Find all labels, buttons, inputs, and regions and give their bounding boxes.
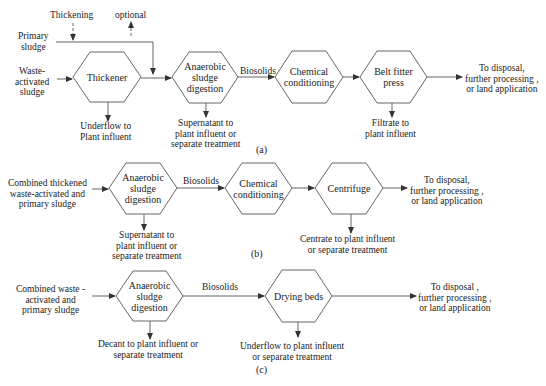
edge-label-biosolids-a: Biosolids	[240, 66, 276, 77]
label-a-filtrate: Filtrate to plant influent	[365, 118, 416, 139]
node-belt-filter-press: Belt fitter press	[360, 51, 427, 103]
node-centrifuge: Centrifuge	[315, 163, 383, 214]
label-b-final-output: To disposal, further processing , or lan…	[410, 175, 484, 207]
label-waste-activated-sludge: Waste- activated sludge	[15, 66, 49, 98]
node-b-chemical: Chemical conditioning	[225, 163, 292, 214]
node-a-anaerobic: Anaerobic sludge digestion	[172, 52, 238, 103]
label-a-thickener-underflow: Underflow to Plant influent	[80, 121, 131, 142]
label-thickening: Thickening	[50, 10, 93, 21]
edge-label-biosolids-b: Biosolids	[183, 176, 219, 187]
node-a-chemical: Chemical conditioning	[275, 51, 343, 103]
label-b-input: Combined thickened waste-activated and p…	[8, 178, 87, 210]
label-primary-sludge: Primary sludge	[18, 31, 49, 52]
label-c-underflow: Underflow to plant influent or separate …	[240, 341, 344, 362]
label-c-input: Combined waste - activated and primary s…	[16, 284, 85, 316]
node-drying-beds: Drying beds	[265, 270, 332, 322]
caption-a: (a)	[256, 144, 267, 155]
label-b-supernatant: Supernatant to plant influent or separat…	[112, 230, 181, 262]
label-c-decant: Decant to plant influent or separate tre…	[98, 339, 198, 360]
label-b-centrate: Centrate to plant influent or separate t…	[300, 234, 395, 255]
node-b-anaerobic: Anaerobic sludge digestion	[109, 163, 177, 214]
label-c-final-output: To disposal , further processing , or la…	[418, 282, 492, 314]
label-a-final-output: To disposal, further processing , or lan…	[465, 63, 539, 95]
node-c-anaerobic: Anaerobic sludge digestion	[116, 271, 183, 321]
node-thickener: Thickener	[73, 52, 141, 102]
caption-b: (b)	[251, 248, 263, 259]
label-a-supernatant: Supernatant to plant influent or separat…	[171, 118, 240, 150]
edge-label-biosolids-c: Biosolids	[202, 282, 238, 293]
caption-c: (c)	[256, 364, 267, 375]
label-optional: optional	[115, 10, 146, 21]
